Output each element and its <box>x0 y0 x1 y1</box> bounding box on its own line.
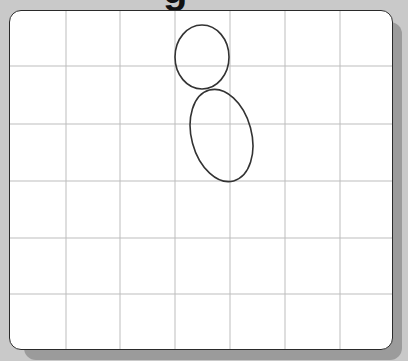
lower-ellipse[interactable] <box>180 82 262 188</box>
upper-ellipse[interactable] <box>175 25 229 89</box>
grid-lines <box>10 11 392 349</box>
title-fragment: g <box>163 0 187 9</box>
drawing-canvas[interactable] <box>9 10 393 350</box>
shape-layer <box>175 25 263 189</box>
grid-and-shapes <box>10 11 392 349</box>
